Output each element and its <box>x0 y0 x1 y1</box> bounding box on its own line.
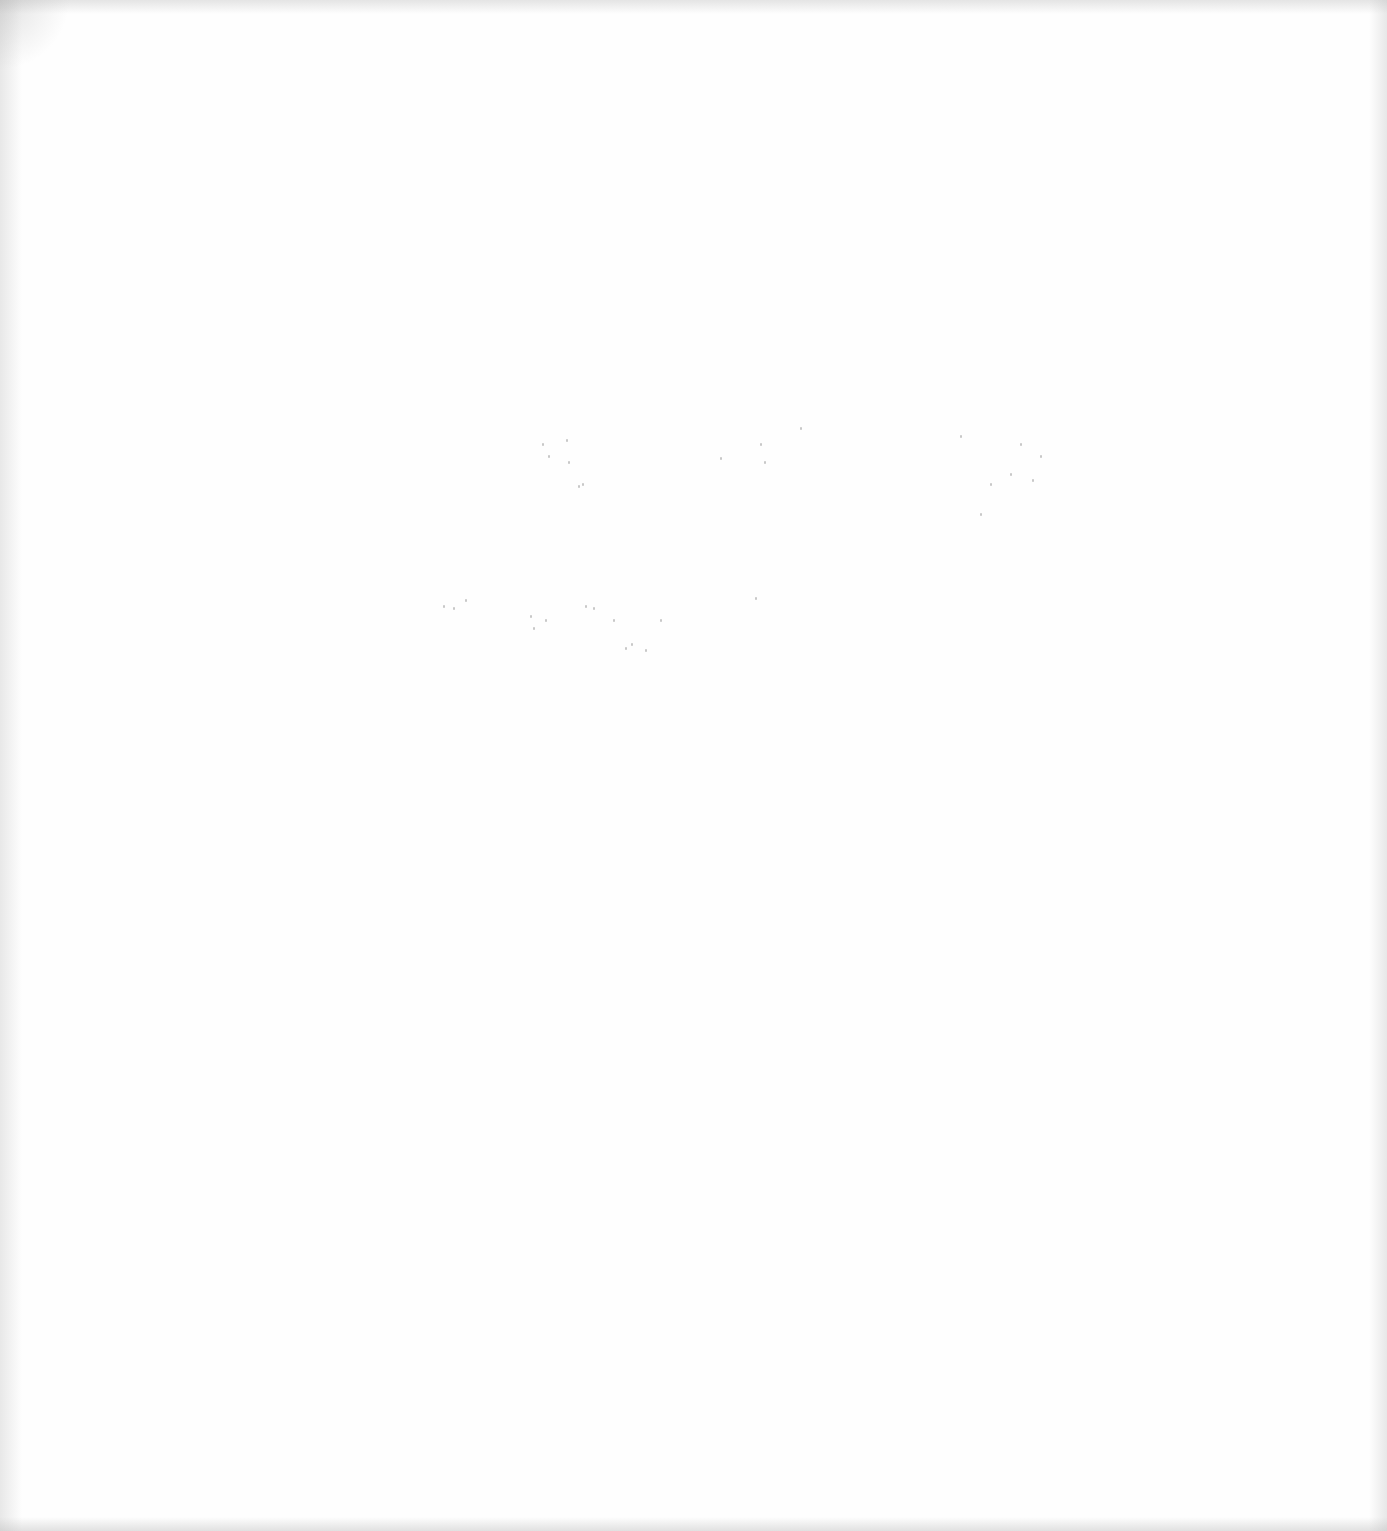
scan-edge-left <box>0 0 22 1531</box>
scan-edge-top <box>0 0 1387 14</box>
scanned-page <box>0 0 1387 1531</box>
scan-edge-bottom <box>0 1517 1387 1531</box>
faint-text-noise-line-1 <box>520 425 1070 505</box>
scan-corner-shadow <box>0 0 70 70</box>
faint-text-noise-line-2 <box>435 585 765 660</box>
scan-edge-right <box>1369 0 1387 1531</box>
